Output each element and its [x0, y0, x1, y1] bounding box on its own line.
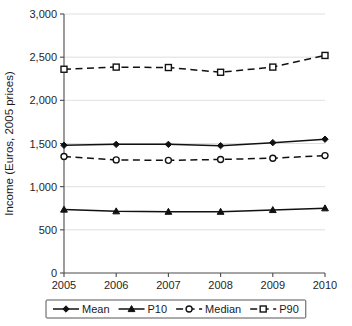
data-point-p90-2008: [218, 69, 224, 75]
legend-label-p10: P10: [148, 303, 168, 315]
data-point-mean-2007: [165, 141, 171, 147]
x-tick-label-2010: 2010: [313, 279, 337, 291]
data-point-median-2006: [113, 157, 119, 163]
chart-canvas: 05001,0001,5002,0002,5003,00020052006200…: [0, 0, 352, 326]
series-group: [61, 52, 329, 214]
x-tick-labels: 200520062007200820092010: [52, 273, 337, 291]
data-point-p90-2006: [113, 64, 119, 70]
y-tick-label-2000: 2,000: [29, 94, 57, 106]
series-line-p10: [64, 208, 325, 211]
series-mean: [61, 136, 328, 149]
data-point-median-2010: [322, 153, 328, 159]
y-tick-label-2500: 2,500: [29, 51, 57, 63]
y-tick-label-1500: 1,500: [29, 138, 57, 150]
data-point-p90-2005: [61, 66, 67, 72]
y-gridlines: [64, 14, 325, 230]
series-line-p90: [64, 55, 325, 72]
y-axis-title: Income (Euros, 2005 prices): [3, 71, 15, 216]
data-point-mean-2009: [270, 139, 276, 145]
series-p90: [61, 52, 328, 75]
x-tick-label-2007: 2007: [156, 279, 180, 291]
y-tick-label-1000: 1,000: [29, 181, 57, 193]
y-tick-labels: 05001,0001,5002,0002,5003,000: [29, 8, 64, 279]
legend-marker-median: [186, 306, 192, 312]
data-point-median-2008: [218, 156, 224, 162]
data-point-median-2007: [165, 157, 171, 163]
legend-label-p90: P90: [279, 303, 299, 315]
x-tick-label-2009: 2009: [261, 279, 285, 291]
data-point-median-2005: [61, 153, 67, 159]
y-tick-label-3000: 3,000: [29, 8, 57, 20]
data-point-p90-2010: [322, 52, 328, 58]
y-tick-label-0: 0: [51, 267, 57, 279]
x-tick-label-2008: 2008: [208, 279, 232, 291]
x-tick-label-2006: 2006: [104, 279, 128, 291]
legend: MeanP10MedianP90: [46, 300, 306, 318]
series-line-median: [64, 156, 325, 161]
series-line-mean: [64, 139, 325, 145]
data-point-median-2009: [270, 155, 276, 161]
x-tick-label-2005: 2005: [52, 279, 76, 291]
data-point-p90-2009: [270, 64, 276, 70]
series-p10: [61, 205, 329, 214]
data-point-mean-2006: [113, 141, 119, 147]
legend-label-median: Median: [205, 303, 241, 315]
data-point-mean-2010: [322, 136, 328, 142]
data-point-p90-2007: [165, 65, 171, 71]
legend-label-mean: Mean: [82, 303, 110, 315]
y-tick-label-500: 500: [39, 224, 57, 236]
line-chart: 05001,0001,5002,0002,5003,00020052006200…: [0, 0, 352, 326]
series-median: [61, 153, 328, 164]
legend-marker-p90: [260, 306, 266, 312]
